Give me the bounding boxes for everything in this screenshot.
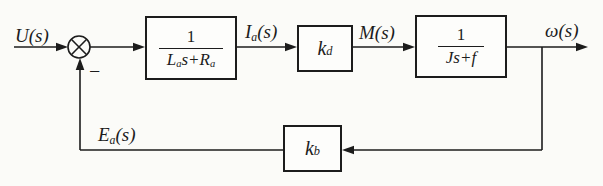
current-subscript: a <box>251 31 257 44</box>
armature-denominator: Las+Ra <box>159 49 223 70</box>
input-signal-label: U(s) <box>15 26 49 45</box>
mechanical-denominator: Js+f <box>438 47 484 68</box>
armature-numerator: 1 <box>159 27 223 49</box>
kb-base: k <box>305 137 314 160</box>
den-sub-a1: a <box>176 58 181 69</box>
den-mid: s+R <box>181 50 209 69</box>
emf-suffix: (s) <box>116 124 136 145</box>
den-L: L <box>167 50 176 69</box>
kb-subscript: b <box>314 144 320 159</box>
minus-sign-label: − <box>89 61 100 81</box>
kd-subscript: d <box>326 44 332 59</box>
mechanical-transfer-block: 1 Js+f <box>415 15 507 78</box>
arrowhead-into-armature <box>133 43 145 52</box>
arrowhead-into-mechanical <box>403 43 415 52</box>
armature-current-label: Ia(s) <box>245 22 277 41</box>
armature-fraction: 1 Las+Ra <box>159 27 223 69</box>
arrowhead-into-junction <box>56 43 68 52</box>
mechanical-numerator: 1 <box>438 25 484 47</box>
emf-base: E <box>98 124 110 145</box>
block-diagram-figure: U(s) Ia(s) M(s) ω(s) Ea(s) − 1 Las+Ra kd… <box>0 0 603 186</box>
kd-base: k <box>317 37 326 60</box>
mechanical-fraction: 1 Js+f <box>438 25 484 67</box>
den-sub-a2: a <box>210 58 215 69</box>
arrowhead-into-junction-bottom <box>76 58 85 70</box>
armature-transfer-block: 1 Las+Ra <box>145 16 237 80</box>
arrowhead-output <box>576 43 588 52</box>
backemf-gain-block: kb <box>283 125 342 172</box>
current-suffix: (s) <box>257 21 277 42</box>
emf-subscript: a <box>110 134 116 147</box>
torque-signal-label: M(s) <box>359 23 395 42</box>
arrowhead-into-kd <box>285 43 297 52</box>
torque-gain-block: kd <box>297 25 353 72</box>
angular-speed-label: ω(s) <box>545 21 578 40</box>
back-emf-label: Ea(s) <box>98 125 136 144</box>
arrowhead-into-kb <box>342 146 354 155</box>
